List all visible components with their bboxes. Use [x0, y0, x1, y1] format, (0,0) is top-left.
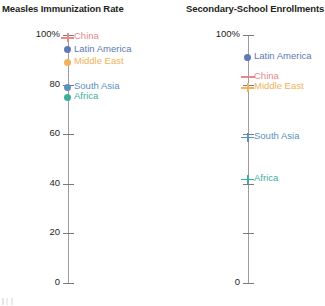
data-point-label: Middle East: [254, 80, 304, 91]
y-tick-label-80: 80: [8, 78, 60, 89]
scan-artifact: [2, 298, 16, 305]
data-point-label: Middle East: [74, 55, 124, 66]
data-point-label: Africa: [74, 90, 98, 101]
y-tick-0: [63, 283, 74, 284]
y-tick-label-60: 60: [8, 127, 60, 138]
marker-icon: [64, 46, 71, 53]
marker-icon: [64, 59, 71, 66]
data-point-label: Africa: [254, 172, 278, 183]
y-tick-label-40: 40: [8, 177, 60, 188]
y-tick-label-0: 0: [8, 276, 60, 287]
data-point-label: Latin America: [254, 50, 312, 61]
marker-icon: [241, 76, 255, 78]
marker-icon: [244, 54, 251, 61]
y-tick-label-0: 0: [188, 276, 240, 287]
data-point-label: China: [74, 30, 99, 41]
y-axis-line: [68, 35, 69, 283]
plot-area-measles: 020406080100% ChinaLatin AmericaMiddle E…: [0, 0, 180, 306]
chart-panel-enrollments: Secondary-School Enrollments 0100% Latin…: [180, 0, 325, 306]
y-tick-100: [243, 35, 254, 36]
y-tick-0: [243, 283, 254, 284]
marker-icon: [241, 83, 254, 92]
y-tick-label-100: 100%: [8, 28, 60, 39]
y-tick-label-20: 20: [8, 226, 60, 237]
y-tick-20: [243, 233, 254, 234]
marker-icon: [61, 33, 74, 42]
y-axis-line: [248, 35, 249, 283]
y-tick-20: [63, 233, 74, 234]
data-point-label: Latin America: [74, 43, 132, 54]
marker-icon: [241, 175, 254, 184]
y-tick-label-100: 100%: [188, 28, 240, 39]
data-point-label: South Asia: [254, 130, 299, 141]
marker-icon: [64, 94, 71, 101]
y-tick-40: [243, 184, 254, 185]
y-tick-60: [63, 134, 74, 135]
marker-icon: [241, 133, 254, 142]
y-tick-40: [63, 184, 74, 185]
marker-icon: [64, 84, 71, 91]
chart-panel-measles: Measles Immunization Rate 020406080100% …: [0, 0, 180, 306]
plot-area-enrollments: 0100% Latin AmericaChinaMiddle EastSouth…: [180, 0, 325, 306]
